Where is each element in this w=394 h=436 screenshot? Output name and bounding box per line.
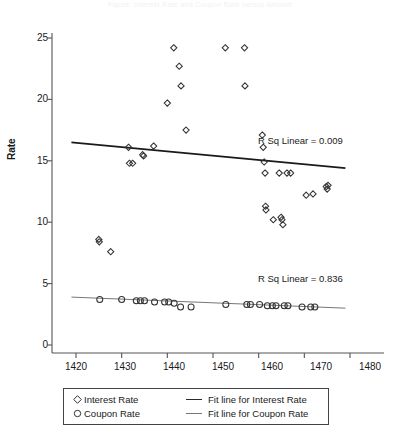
data-point (223, 301, 229, 307)
legend-label-interest-rate: Interest Rate (84, 394, 138, 405)
legend-row-coupon: Coupon Rate Fit line for Coupon Rate (70, 406, 322, 420)
data-point (188, 304, 194, 310)
legend-label-fit-line-coupon: Fit line for Coupon Rate (208, 408, 308, 419)
chart-legend: Interest Rate Fit line for Interest Rate… (63, 388, 329, 425)
data-point (171, 45, 177, 51)
data-point (152, 299, 158, 305)
fit-line-coupon-rate (71, 297, 345, 308)
legend-label-fit-line-interest: Fit line for Interest Rate (208, 394, 307, 405)
data-point (142, 298, 148, 304)
data-point (108, 249, 114, 255)
data-point (178, 304, 184, 310)
interest-rate-points (96, 45, 331, 255)
data-point (164, 100, 170, 106)
data-point (151, 143, 157, 149)
data-point (310, 191, 316, 197)
data-point (262, 170, 268, 176)
circle-marker-icon (70, 409, 84, 418)
data-point (97, 297, 103, 303)
x-axis-ticks (76, 353, 350, 358)
legend-row-interest: Interest Rate Fit line for Interest Rate (70, 392, 322, 406)
diamond-marker-icon (70, 395, 84, 404)
data-point (178, 83, 184, 89)
legend-label-coupon-rate: Coupon Rate (84, 408, 140, 419)
axis-lines (52, 33, 384, 353)
coupon-rate-points (97, 297, 318, 310)
data-point (176, 63, 182, 69)
fit-line-interest-swatch (186, 399, 202, 400)
plot-area (0, 0, 394, 436)
fit-line-interest-rate (71, 142, 345, 168)
fit-line-coupon-swatch (186, 413, 202, 414)
data-point (303, 192, 309, 198)
data-point (242, 83, 248, 89)
data-point (270, 217, 276, 223)
data-point (222, 45, 228, 51)
data-point (241, 45, 247, 51)
data-point (183, 127, 189, 133)
data-point (276, 170, 282, 176)
y-axis-ticks (47, 38, 52, 345)
interest-rsq-annotation: R Sq Linear = 0.009 (258, 135, 343, 146)
coupon-rsq-annotation: R Sq Linear = 0.836 (258, 273, 343, 284)
scatter-chart: Figure: Interest Rate and Coupon Rate ve… (0, 0, 394, 436)
